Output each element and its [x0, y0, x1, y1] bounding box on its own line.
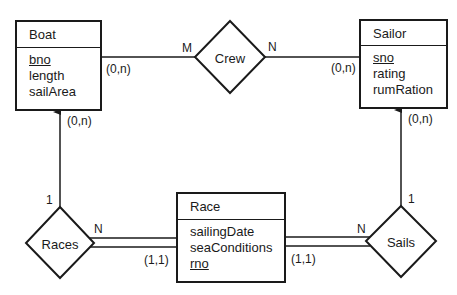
attribute-rating: rating [373, 66, 446, 82]
attribute-length: length [29, 68, 100, 84]
cardinality-races-race: N [94, 222, 103, 236]
attribute-seaconditions: seaConditions [190, 240, 284, 256]
minmax-race-sails: (1,1) [291, 252, 316, 266]
cardinality-sails-sailor: 1 [408, 192, 415, 206]
entity-boat-title: Boat [17, 22, 100, 48]
minmax-boat-crew: (0,n) [106, 62, 131, 76]
entity-boat[interactable]: Boat bno length sailArea [15, 20, 102, 111]
entity-sailor[interactable]: Sailor sno rating rumRation [359, 19, 448, 109]
cardinality-crew-boat: M [182, 41, 192, 55]
minmax-boat-races: (0,n) [67, 114, 92, 128]
attribute-rumration: rumRation [373, 82, 446, 98]
minmax-race-races: (1,1) [144, 253, 169, 267]
relationship-crew-label: Crew [215, 51, 245, 66]
attribute-sno: sno [373, 50, 446, 66]
attribute-bno: bno [29, 52, 100, 68]
cardinality-crew-sailor: N [268, 40, 277, 54]
entity-race-title: Race [178, 194, 284, 220]
cardinality-sails-race: N [357, 222, 366, 236]
relationship-sails-label: Sails [387, 235, 415, 250]
cardinality-races-boat: 1 [46, 193, 53, 207]
entity-boat-attributes: bno length sailArea [17, 48, 100, 100]
relationship-races-label: Races [42, 237, 79, 252]
entity-sailor-title: Sailor [361, 21, 446, 46]
entity-race-attributes: sailingDate seaConditions rno [178, 220, 284, 272]
minmax-sailor-sails: (0,n) [408, 112, 433, 126]
attribute-rno: rno [190, 256, 284, 272]
attribute-sailarea: sailArea [29, 84, 100, 100]
attribute-sailingdate: sailingDate [190, 224, 284, 240]
entity-race[interactable]: Race sailingDate seaConditions rno [176, 192, 286, 283]
entity-sailor-attributes: sno rating rumRation [361, 46, 446, 98]
minmax-sailor-crew: (0,n) [331, 61, 356, 75]
